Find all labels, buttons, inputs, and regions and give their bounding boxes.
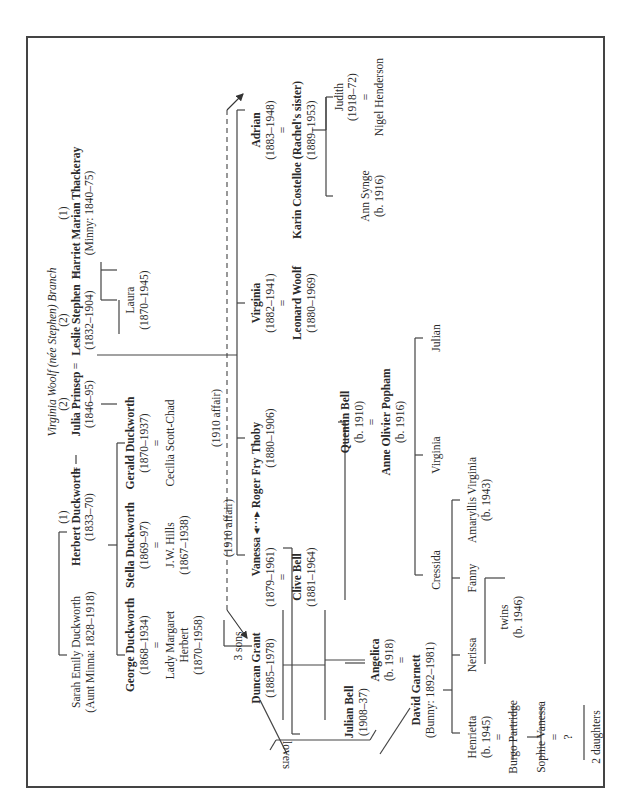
eq-leslie-julia: = [70, 363, 83, 370]
garnett-dates: (Bunny: 1892–1981) [424, 642, 437, 738]
henrietta-name: Henrietta [466, 716, 479, 759]
sophie-name: Sophie Vanessa [535, 701, 548, 773]
virginia-q-name: Virginia [430, 436, 443, 473]
harriet-num: (1) [57, 206, 70, 219]
quentin-dates: (b. 1910) [353, 401, 366, 443]
julia-num: (2) [57, 397, 70, 410]
affair-label-2: (1910 affair) [222, 499, 235, 557]
eq-adrian: = [277, 127, 290, 134]
herbert-num: (1) [57, 510, 70, 523]
julia-name: Julia Prinsep [70, 372, 83, 437]
george-dates: (1868–1934) [138, 615, 151, 674]
clive-name: Clive Bell [291, 553, 304, 601]
twins-dates: (b. 1946) [512, 596, 525, 638]
eq-sophie: = [549, 734, 562, 741]
margaret-name1: Lady Margaret [164, 611, 177, 679]
anne-name: Anne Olivier Popham [380, 368, 393, 475]
cecilia-name: Cecilia Scott-Chad [164, 399, 177, 486]
duncan-name: Duncan Grant [250, 632, 263, 703]
angelica-name: Angelica [369, 639, 382, 682]
gerald-name: Gerald Duckworth [124, 397, 137, 490]
julianbell-dates: (1908–37) [357, 688, 370, 736]
leslie-name: Leslie Stephen [70, 284, 83, 355]
eq-george: = [151, 642, 164, 649]
julian-q-name: Julian [430, 324, 443, 351]
three-sons: 3 sons [232, 631, 245, 660]
burgo-name: Burgo Partridge [507, 700, 520, 774]
eq-virginia: = [277, 300, 290, 307]
adrian-name: Adrian [250, 112, 263, 147]
eq-harriet-leslie: = [70, 272, 83, 279]
sarah-name: Sarah Emily Duckworth [70, 596, 83, 708]
herbert-dates: (1833–70) [83, 493, 96, 541]
cressida-name: Cressida [430, 550, 443, 590]
eq-quentin: = [366, 419, 379, 426]
stella-name: Stella Duckworth [124, 502, 137, 588]
nerissa-name: Nerissa [466, 638, 479, 673]
eq-henrietta: = [493, 734, 506, 741]
lovers-label: lovers [280, 741, 293, 769]
thoby-dates: (1880–1906) [264, 408, 277, 467]
ann-name: Ann Synge [359, 170, 372, 221]
ann-dates: (b. 1916) [373, 175, 386, 217]
angelica-dates: (b. 1918) [383, 639, 396, 681]
amaryllis-name: Amaryllis Virginia [466, 457, 479, 543]
leslie-dates: (1832–1904) [83, 290, 96, 349]
judith-dates: (1918–72) [346, 73, 359, 121]
margaret-dates: (1870–1958) [192, 615, 205, 674]
nigel-name: Nigel Henderson [373, 58, 386, 136]
virginia-dates: (1882–1941) [264, 273, 277, 332]
karin-dates: (1889–1953) [305, 100, 318, 159]
twins-label: twins [498, 605, 511, 630]
herbert-name: Herbert Duckworth [70, 468, 83, 566]
thoby-name: Thoby [250, 422, 263, 454]
eq-gerald: = [151, 440, 164, 447]
harriet-name: Harriet Marian Thackeray [70, 147, 83, 280]
vanessa-name: Vanessa ◂···▸ Roger Fry [250, 458, 263, 577]
laura-name: Laura [124, 287, 137, 314]
duncan-dates: (1885–1978) [264, 638, 277, 697]
eq-vanessa: = [277, 574, 290, 581]
harriet-dates: (Minny: 1840–75) [83, 171, 96, 256]
adrian-dates: (1883–1948) [264, 100, 277, 159]
eq-angelica: = [396, 657, 409, 664]
quentin-name: Quentin Bell [339, 391, 352, 453]
stella-dates: (1869–97) [138, 521, 151, 569]
karin-name: Karin Costelloe (Rachel's sister) [291, 81, 304, 239]
julianbell-name: Julian Bell [343, 686, 356, 739]
virginia-name: Virginia [250, 283, 263, 323]
eq-judith: = [360, 94, 373, 101]
anne-dates: (b. 1916) [394, 401, 407, 443]
henrietta-dates: (b. 1945) [480, 716, 493, 758]
leonard-dates: (1880–1969) [305, 273, 318, 332]
two-daughters: 2 daughters [590, 710, 603, 763]
unknown-spouse: ? [562, 734, 575, 739]
julia-dates: (1846–95) [83, 380, 96, 428]
jwhills-dates: (1867–1938) [178, 515, 191, 574]
affair-label-1: (1910 affair) [210, 389, 223, 447]
fanny-name: Fanny [466, 564, 479, 593]
laura-dates: (1870–1945) [138, 270, 151, 329]
margaret-name2: Herbert [178, 627, 191, 662]
jwhills-name: J.W. Hills [164, 522, 177, 567]
vanessa-dates: (1879–1961) [264, 547, 277, 606]
judith-name: Judith [333, 83, 346, 111]
sarah-dates: (Aunt Minna: 1828–1918) [84, 591, 97, 712]
gerald-dates: (1870–1937) [138, 413, 151, 472]
eq-stella: = [151, 542, 164, 549]
title: Virginia Woolf (née Stephen) Branch [46, 268, 59, 437]
george-name: George Duckworth [124, 598, 137, 692]
leonard-name: Leonard Woolf [291, 266, 304, 340]
amaryllis-dates: (b. 1943) [480, 479, 493, 521]
leslie-num: (2) [57, 313, 70, 326]
clive-dates: (1881–1964) [305, 547, 318, 606]
garnett-name: David Garnett [410, 654, 423, 725]
